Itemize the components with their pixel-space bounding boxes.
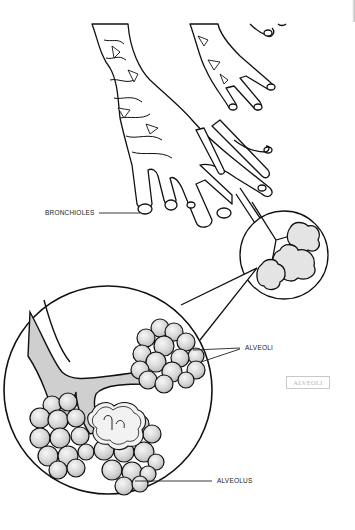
- small-magnifier: [240, 202, 328, 299]
- lung-illustration: [0, 0, 355, 530]
- label-alveolus: ALVEOLUS: [217, 477, 252, 484]
- label-alveoli: ALVEOLI: [245, 344, 273, 351]
- diagram-canvas: BRONCHIOLES ALVEOLI ALVEOLUS ALVEOLI: [0, 0, 355, 530]
- answer-box-alveoli: ALVEOLI: [286, 376, 330, 389]
- label-bronchioles: BRONCHIOLES: [45, 209, 95, 216]
